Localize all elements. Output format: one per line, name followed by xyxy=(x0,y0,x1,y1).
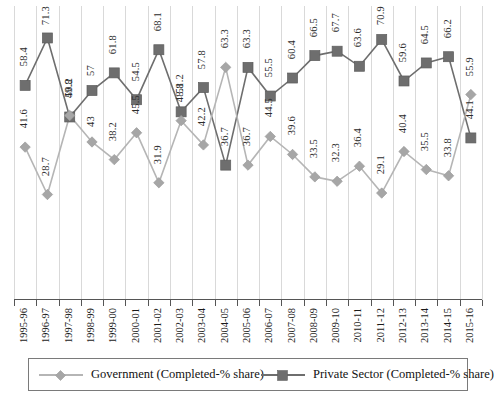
x-axis-label: 2005-06 xyxy=(242,308,253,343)
data-label-private-sector: 60.4 xyxy=(287,40,298,59)
x-axis-tick xyxy=(59,300,60,306)
legend-label-government: Government (Completed-% share) xyxy=(91,367,264,382)
data-label-government: 43 xyxy=(86,116,97,127)
x-axis-label: 2006-07 xyxy=(264,308,275,343)
x-axis-tick xyxy=(170,300,171,306)
plot-area: 58.471.349.85761.854.568.151.257.836.763… xyxy=(14,6,482,300)
data-label-private-sector: 70.9 xyxy=(376,6,387,25)
data-point-private-sector xyxy=(421,58,431,68)
square-icon xyxy=(277,370,288,381)
data-label-private-sector: 44.1 xyxy=(465,100,476,119)
x-axis-label: 2010-11 xyxy=(353,308,364,343)
legend-item-private-sector[interactable]: Private Sector (Completed-% share) xyxy=(261,359,494,390)
x-axis-tick xyxy=(371,300,372,306)
legend-marker-government xyxy=(39,369,83,381)
data-label-government: 32.3 xyxy=(331,143,342,162)
x-axis-tick xyxy=(192,300,193,306)
x-axis-label: 2011-12 xyxy=(376,308,387,343)
series-lines xyxy=(14,6,482,300)
data-point-government xyxy=(332,176,342,186)
x-axis-label: 2003-04 xyxy=(197,308,208,343)
data-point-private-sector xyxy=(42,33,52,43)
x-axis-label: 1998-99 xyxy=(86,308,97,343)
x-axis-label: 2002-03 xyxy=(175,308,186,343)
x-axis-label: 2008-09 xyxy=(309,308,320,343)
x-axis-tick xyxy=(415,300,416,306)
data-label-government: 41.6 xyxy=(19,109,30,128)
data-point-government xyxy=(443,171,453,181)
data-label-private-sector: 66.5 xyxy=(309,18,320,37)
data-point-private-sector xyxy=(332,46,342,56)
data-point-private-sector xyxy=(20,80,30,90)
x-axis-tick xyxy=(148,300,149,306)
data-point-government xyxy=(42,189,52,199)
data-point-private-sector xyxy=(354,61,364,71)
data-label-government: 55.9 xyxy=(465,57,476,76)
data-point-private-sector xyxy=(310,51,320,61)
x-axis-line xyxy=(14,299,482,300)
x-axis-label: 2009-10 xyxy=(331,308,342,343)
data-label-private-sector: 57.8 xyxy=(197,50,208,69)
x-axis-tick xyxy=(482,300,483,306)
x-axis-tick xyxy=(304,300,305,306)
data-point-government xyxy=(466,89,476,99)
data-point-private-sector xyxy=(87,86,97,96)
x-axis-tick xyxy=(259,300,260,306)
x-axis-label: 2015-16 xyxy=(465,308,476,343)
data-label-government: 28.7 xyxy=(41,157,52,176)
data-label-government: 39.6 xyxy=(287,116,298,135)
data-point-private-sector xyxy=(154,45,164,55)
data-point-government xyxy=(154,178,164,188)
data-label-government: 33.8 xyxy=(443,138,454,157)
data-label-government: 45.5 xyxy=(131,95,142,114)
legend-marker-private-sector xyxy=(261,369,305,381)
data-label-private-sector: 61.8 xyxy=(108,35,119,54)
x-axis-labels: 1995-961996-971997-981998-991999-002000-… xyxy=(14,308,482,354)
data-point-private-sector xyxy=(444,52,454,62)
data-label-private-sector: 63.6 xyxy=(353,28,364,47)
data-label-private-sector: 54.5 xyxy=(131,62,142,81)
chart-legend: Government (Completed-% share) Private S… xyxy=(28,358,468,391)
x-axis-label: 2013-14 xyxy=(420,308,431,343)
x-axis-label: 1999-00 xyxy=(108,308,119,343)
chart-container: 58.471.349.85761.854.568.151.257.836.763… xyxy=(0,0,497,418)
x-axis-tick xyxy=(36,300,37,306)
data-label-private-sector: 71.3 xyxy=(41,6,52,25)
data-point-private-sector xyxy=(221,160,231,170)
data-label-private-sector: 58.4 xyxy=(19,47,30,66)
data-label-government: 36.7 xyxy=(242,127,253,146)
data-label-government: 31.9 xyxy=(153,145,164,164)
data-label-government: 63.3 xyxy=(220,29,231,48)
data-label-private-sector: 59.6 xyxy=(398,43,409,62)
data-label-private-sector: 64.5 xyxy=(420,25,431,44)
data-point-private-sector xyxy=(399,76,409,86)
x-axis-label: 2007-08 xyxy=(287,308,298,343)
data-label-government: 36.4 xyxy=(353,128,364,147)
data-label-private-sector: 57 xyxy=(86,65,97,76)
x-axis-tick xyxy=(326,300,327,306)
x-axis-label: 1995-96 xyxy=(19,308,30,343)
x-axis-tick xyxy=(237,300,238,306)
data-label-government: 44.5 xyxy=(264,98,275,117)
data-label-government: 33.5 xyxy=(309,139,320,158)
legend-item-government[interactable]: Government (Completed-% share) xyxy=(39,359,264,390)
data-label-government: 38.2 xyxy=(108,122,119,141)
gridline xyxy=(482,6,483,300)
data-label-government: 48.8 xyxy=(175,83,186,102)
x-axis-tick xyxy=(393,300,394,306)
x-axis-tick xyxy=(281,300,282,306)
data-label-private-sector: 36.7 xyxy=(220,127,231,146)
x-axis-tick xyxy=(437,300,438,306)
diamond-icon xyxy=(55,370,66,381)
x-axis-tick xyxy=(14,300,15,306)
data-label-private-sector: 55.5 xyxy=(264,58,275,77)
data-label-private-sector: 67.7 xyxy=(331,13,342,32)
data-point-government xyxy=(20,142,30,152)
legend-label-private-sector: Private Sector (Completed-% share) xyxy=(313,367,494,382)
x-axis-tick xyxy=(103,300,104,306)
x-axis-label: 1996-97 xyxy=(41,308,52,343)
data-point-private-sector xyxy=(377,34,387,44)
data-label-private-sector: 63.3 xyxy=(242,29,253,48)
x-axis-tick xyxy=(215,300,216,306)
x-axis-label: 2000-01 xyxy=(131,308,142,343)
